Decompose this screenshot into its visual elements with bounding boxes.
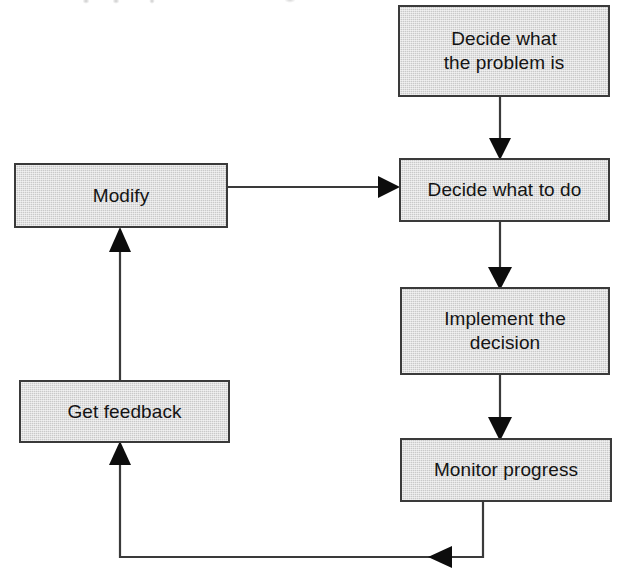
node-implement-decision[interactable]: Implement the decision [400, 287, 610, 375]
node-decide-problem-label: Decide what the problem is [444, 27, 565, 75]
node-implement-decision-label: Implement the decision [444, 307, 566, 355]
node-modify[interactable]: Modify [14, 163, 228, 228]
node-get-feedback[interactable]: Get feedback [19, 380, 230, 443]
arrowhead-bottom-loop-left [428, 546, 452, 568]
node-modify-label: Modify [93, 184, 150, 208]
node-get-feedback-label: Get feedback [67, 400, 181, 424]
node-decide-problem[interactable]: Decide what the problem is [398, 5, 610, 97]
node-monitor-progress[interactable]: Monitor progress [400, 438, 612, 502]
arrowhead-into-decide-what-to-do [489, 138, 511, 160]
node-monitor-progress-label: Monitor progress [434, 458, 578, 482]
arrowhead-modify-into-decide [378, 176, 400, 198]
node-decide-what-to-do[interactable]: Decide what to do [399, 158, 610, 222]
node-decide-what-to-do-label: Decide what to do [428, 178, 582, 202]
arrowhead-into-modify [109, 227, 131, 252]
arrowhead-into-get-feedback [109, 441, 131, 465]
flowchart-canvas: Decide what the problem is Modify Decide… [0, 0, 631, 576]
